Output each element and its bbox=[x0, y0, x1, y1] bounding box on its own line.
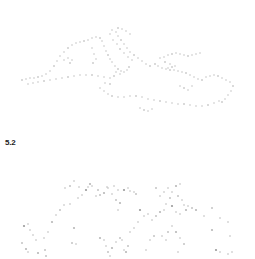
dot bbox=[159, 57, 160, 58]
dot bbox=[123, 43, 124, 44]
dot bbox=[187, 205, 189, 207]
dot bbox=[157, 65, 158, 66]
dot bbox=[219, 251, 221, 253]
dot bbox=[112, 39, 113, 40]
dot bbox=[199, 52, 200, 53]
dot bbox=[25, 78, 26, 79]
dot bbox=[167, 187, 169, 189]
dot bbox=[117, 27, 118, 28]
dot bbox=[171, 225, 173, 227]
dot bbox=[107, 251, 109, 253]
dot bbox=[67, 47, 68, 48]
dot bbox=[177, 251, 179, 253]
dot bbox=[125, 251, 127, 253]
dot bbox=[95, 36, 96, 37]
dot bbox=[203, 215, 205, 217]
dot bbox=[164, 61, 165, 62]
dot bbox=[117, 96, 118, 97]
dot bbox=[109, 58, 110, 59]
dot bbox=[55, 78, 56, 79]
dot bbox=[181, 71, 182, 72]
dot bbox=[227, 253, 229, 255]
dot bbox=[121, 239, 123, 241]
dot bbox=[119, 237, 121, 239]
dot bbox=[32, 82, 33, 83]
dot bbox=[126, 69, 127, 70]
dot bbox=[145, 63, 146, 64]
dot bbox=[25, 248, 27, 250]
dot bbox=[169, 197, 171, 199]
dot bbox=[137, 221, 139, 223]
dot bbox=[69, 62, 70, 63]
dot bbox=[123, 96, 124, 97]
dot bbox=[99, 194, 101, 196]
dot bbox=[117, 68, 118, 69]
dot bbox=[111, 29, 112, 30]
dot bbox=[129, 231, 131, 233]
dot bbox=[51, 221, 53, 223]
dot bbox=[205, 76, 206, 77]
dot bbox=[107, 54, 108, 55]
dot bbox=[97, 75, 98, 76]
dot bbox=[53, 65, 54, 66]
dot bbox=[85, 74, 86, 75]
dot bbox=[45, 73, 46, 74]
dot bbox=[115, 31, 116, 32]
dot bbox=[225, 79, 226, 80]
dot bbox=[101, 40, 102, 41]
dot bbox=[117, 35, 118, 36]
dot bbox=[131, 59, 132, 60]
dot bbox=[67, 76, 68, 77]
dot bbox=[169, 69, 170, 70]
dot bbox=[163, 191, 165, 193]
dot bbox=[103, 239, 105, 241]
dot bbox=[103, 90, 104, 91]
dot bbox=[213, 74, 214, 75]
dot bbox=[33, 77, 34, 78]
dot bbox=[109, 83, 110, 84]
dot bbox=[197, 78, 198, 79]
dot bbox=[161, 67, 162, 68]
dot bbox=[97, 189, 99, 191]
dot bbox=[169, 63, 170, 64]
dot bbox=[179, 237, 181, 239]
dot bbox=[111, 193, 113, 195]
dot bbox=[123, 71, 124, 72]
dot bbox=[213, 102, 214, 103]
dot bbox=[106, 186, 108, 188]
dot bbox=[111, 247, 113, 249]
dot bbox=[175, 52, 176, 53]
dot bbox=[183, 87, 184, 88]
dot bbox=[21, 79, 22, 80]
dot bbox=[201, 105, 202, 106]
dot bbox=[175, 185, 177, 187]
dot bbox=[21, 242, 23, 244]
dot bbox=[64, 187, 66, 189]
dot bbox=[73, 180, 75, 182]
dot bbox=[143, 109, 144, 110]
dot bbox=[183, 54, 184, 55]
dot bbox=[227, 94, 228, 95]
dot bbox=[61, 77, 62, 78]
dot bbox=[201, 79, 202, 80]
dot bbox=[55, 214, 57, 216]
dot bbox=[143, 215, 145, 217]
dot bbox=[71, 44, 72, 45]
dot bbox=[105, 50, 106, 51]
dot bbox=[155, 215, 157, 217]
dot bbox=[187, 55, 188, 56]
dot bbox=[139, 107, 140, 108]
dot bbox=[111, 95, 112, 96]
dot bbox=[229, 81, 230, 82]
dot bbox=[117, 189, 119, 191]
dot bbox=[129, 95, 130, 96]
dot bbox=[27, 223, 29, 225]
dot bbox=[167, 67, 168, 68]
dot bbox=[37, 252, 39, 254]
dot bbox=[207, 104, 208, 105]
dot bbox=[149, 65, 150, 66]
dot bbox=[27, 83, 28, 84]
dot bbox=[147, 98, 148, 99]
dot bbox=[193, 76, 194, 77]
dot bbox=[104, 82, 105, 83]
